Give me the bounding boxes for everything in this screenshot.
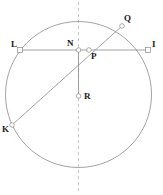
point-label-K: K <box>2 125 9 134</box>
point-marker-N <box>76 48 81 53</box>
point-marker-R <box>76 94 81 99</box>
point-marker-L <box>18 48 23 53</box>
point-marker-K <box>10 123 15 128</box>
point-label-N: N <box>67 39 74 48</box>
point-marker-I <box>146 48 151 53</box>
point-marker-Q <box>120 24 125 29</box>
point-label-P: P <box>91 52 97 61</box>
geometry-canvas <box>0 0 163 195</box>
point-label-L: L <box>11 40 17 49</box>
point-label-Q: Q <box>124 14 131 23</box>
point-label-I: I <box>152 40 156 49</box>
circle-geometry-diagram: L I N P Q K R <box>0 0 163 195</box>
point-label-R: R <box>84 92 91 101</box>
